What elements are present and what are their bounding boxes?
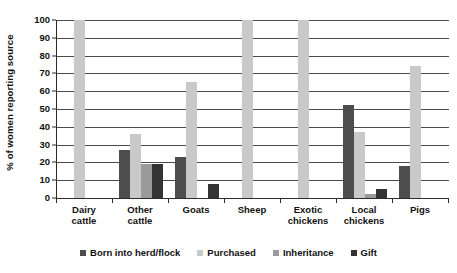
bar	[141, 164, 152, 198]
x-axis-label: Exoticchickens	[280, 204, 336, 226]
x-axis-tick-mark	[280, 198, 281, 203]
x-axis-label-line: cattle	[56, 215, 112, 226]
x-axis-label: Othercattle	[112, 204, 168, 226]
plot-area	[56, 20, 449, 199]
legend-swatch-icon	[273, 250, 279, 256]
x-axis-label-line: cattle	[112, 215, 168, 226]
y-axis-tick-label: 50	[18, 104, 50, 114]
bar	[298, 20, 309, 198]
bar-group	[337, 20, 393, 198]
legend-swatch-icon	[351, 250, 357, 256]
legend-label: Gift	[361, 247, 377, 258]
legend-label: Purchased	[207, 247, 256, 258]
bar	[208, 184, 219, 198]
x-axis-label: Localchickens	[336, 204, 392, 226]
bar	[410, 66, 421, 198]
bar-group	[169, 20, 225, 198]
x-axis-labels: DairycattleOthercattleGoatsSheepExoticch…	[56, 204, 448, 226]
y-axis-tick-label: 20	[18, 158, 50, 168]
x-axis-tick-mark	[448, 198, 449, 203]
x-axis-label-line: Pigs	[392, 204, 448, 215]
legend-item: Purchased	[197, 247, 256, 258]
bar	[354, 132, 365, 198]
x-axis-label-line: Other	[112, 204, 168, 215]
x-axis-label-line: Exotic	[280, 204, 336, 215]
bar	[399, 166, 410, 198]
x-axis-tick-mark	[56, 198, 57, 203]
bar	[130, 134, 141, 198]
x-axis-tick-mark	[168, 198, 169, 203]
bar-group	[113, 20, 169, 198]
legend-label: Inheritance	[283, 247, 334, 258]
x-axis-label-line: Local	[336, 204, 392, 215]
x-axis-tick-mark	[336, 198, 337, 203]
bar	[365, 194, 376, 198]
y-axis-tick-labels: 0102030405060708090100	[18, 20, 56, 198]
legend-item: Born into herd/flock	[80, 247, 180, 258]
x-axis-label: Goats	[168, 204, 224, 226]
legend-item: Inheritance	[273, 247, 334, 258]
bar-group	[393, 20, 449, 198]
y-axis-tick-label: 70	[18, 69, 50, 79]
bar	[242, 20, 253, 198]
x-axis-label: Dairycattle	[56, 204, 112, 226]
bar	[74, 20, 85, 198]
x-axis-label-line: Goats	[168, 204, 224, 215]
x-axis-tick-mark	[224, 198, 225, 203]
x-axis-tick-mark	[112, 198, 113, 203]
x-axis-label: Pigs	[392, 204, 448, 226]
x-axis-label-line: Sheep	[224, 204, 280, 215]
legend-item: Gift	[351, 247, 377, 258]
y-axis-title: % of women reporting source	[0, 0, 18, 205]
x-axis-label-line: chickens	[336, 215, 392, 226]
bar	[343, 105, 354, 198]
y-axis-tick-label: 30	[18, 140, 50, 150]
bar	[376, 189, 387, 198]
y-axis-tick-label: 100	[18, 15, 50, 25]
y-axis-tick-label: 60	[18, 86, 50, 96]
x-axis-label-line: chickens	[280, 215, 336, 226]
bar-group	[225, 20, 281, 198]
y-axis-tick-label: 80	[18, 51, 50, 61]
bar-group	[57, 20, 113, 198]
bar-group	[281, 20, 337, 198]
y-axis-tick-label: 0	[18, 193, 50, 203]
y-axis-tick-label: 40	[18, 122, 50, 132]
x-axis-label-line: Dairy	[56, 204, 112, 215]
bar	[186, 82, 197, 198]
x-axis-label: Sheep	[224, 204, 280, 226]
y-axis-title-text: % of women reporting source	[4, 34, 15, 170]
legend-swatch-icon	[80, 250, 86, 256]
x-axis-tick-mark	[392, 198, 393, 203]
legend-label: Born into herd/flock	[90, 247, 180, 258]
bar	[119, 150, 130, 198]
y-axis-tick-label: 10	[18, 175, 50, 185]
bar	[175, 157, 186, 198]
y-axis-tick-label: 90	[18, 33, 50, 43]
bar-chart-figure: % of women reporting source 010203040506…	[0, 0, 457, 273]
legend-swatch-icon	[197, 250, 203, 256]
bar	[152, 164, 163, 198]
chart-legend: Born into herd/flockPurchasedInheritance…	[0, 247, 457, 258]
bar-groups	[57, 20, 449, 198]
